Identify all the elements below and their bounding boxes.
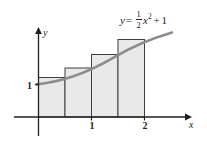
equation-exponent: 2 <box>148 12 152 21</box>
riemann-rectangle-4 <box>118 40 145 118</box>
x-axis-label: x <box>189 119 193 130</box>
fraction-numerator: 1 <box>136 10 142 19</box>
equation-plus-sign: + <box>154 14 160 26</box>
equation-annotation: y=12x2+1 <box>120 10 167 29</box>
y-axis-tick-label-1: 1 <box>25 80 34 91</box>
riemann-sum-figure: y=12x2+1 y x 1 1 2 <box>0 0 207 147</box>
riemann-rectangles <box>39 40 145 118</box>
plot-canvas <box>0 0 207 147</box>
fraction-denominator: 2 <box>136 21 142 30</box>
y-axis-label: y <box>43 27 47 38</box>
x-axis-tick-label-2: 2 <box>140 120 150 131</box>
equation-equals-sign: = <box>126 14 132 26</box>
equation-fraction: 12 <box>136 10 142 29</box>
equation-lhs: y <box>120 14 125 26</box>
y-axis-arrow <box>35 27 42 34</box>
equation-constant: 1 <box>161 14 167 26</box>
x-axis-tick-label-1: 1 <box>87 120 97 131</box>
